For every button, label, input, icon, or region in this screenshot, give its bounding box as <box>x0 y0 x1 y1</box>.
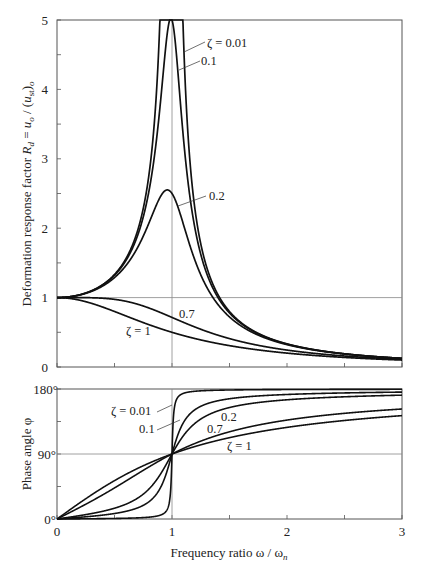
top-y-tick-3: 3 <box>42 151 49 166</box>
deformation-curve <box>57 298 402 360</box>
x-tick-3: 3 <box>399 524 406 539</box>
x-axis-title: Frequency ratio ω / ωn <box>171 545 288 562</box>
top-plot-frame <box>57 20 402 367</box>
top-y-tick-2: 2 <box>42 221 49 236</box>
phase-leader-zeta-01 <box>157 420 180 430</box>
x-tick-0: 0 <box>54 524 61 539</box>
bottom-y-tick-180: 180° <box>33 382 58 397</box>
label-zeta-01: 0.1 <box>201 54 217 68</box>
label-zeta-02: 0.2 <box>209 189 225 203</box>
deformation-curve <box>57 20 402 358</box>
bottom-y-axis-title: Phase angle φ <box>19 418 34 490</box>
label-zeta-001: ζ = 0.01 <box>207 36 247 50</box>
bottom-y-tick-90: 90° <box>38 447 56 462</box>
deformation-curve <box>57 190 402 359</box>
top-y-tick-0: 0 <box>42 360 49 375</box>
label-zeta-1: ζ = 1 <box>126 324 151 338</box>
deformation-curves <box>57 20 402 360</box>
phase-leader-zeta-001 <box>157 405 172 412</box>
phase-label-zeta-01: 0.1 <box>139 422 155 436</box>
top-y-axis-title: Deformation response factor Rd = uo / (u… <box>19 81 36 307</box>
x-tick-1: 1 <box>169 524 176 539</box>
label-zeta-07: 0.7 <box>179 307 195 321</box>
response-chart: 0 1 2 3 4 5 Deformation response factor … <box>0 0 421 571</box>
phase-label-zeta-02: 0.2 <box>221 410 237 424</box>
leader-zeta-001 <box>184 42 205 52</box>
deformation-plot: 0 1 2 3 4 5 Deformation response factor … <box>19 13 402 375</box>
leader-zeta-02 <box>178 196 206 206</box>
phase-label-zeta-07: 0.7 <box>207 422 223 436</box>
leader-zeta-01 <box>179 61 200 70</box>
top-y-tick-4: 4 <box>42 82 49 97</box>
phase-curve <box>57 409 402 519</box>
bottom-y-tick-labels: 0° 90° 180° <box>33 382 58 527</box>
top-axis-ticks <box>57 20 402 367</box>
top-y-tick-1: 1 <box>42 290 49 305</box>
top-y-tick-labels: 0 1 2 3 4 5 <box>42 13 49 375</box>
phase-plot: 0° 90° 180° 0 1 2 3 Phase angle φ Freque… <box>19 382 405 562</box>
phase-label-zeta-001: ζ = 0.01 <box>111 404 151 418</box>
top-y-tick-5: 5 <box>42 13 49 28</box>
deformation-curve <box>57 20 402 358</box>
x-tick-labels: 0 1 2 3 <box>54 524 406 539</box>
deformation-curve <box>57 298 402 360</box>
x-tick-2: 2 <box>284 524 291 539</box>
phase-label-zeta-1: ζ = 1 <box>227 439 252 453</box>
